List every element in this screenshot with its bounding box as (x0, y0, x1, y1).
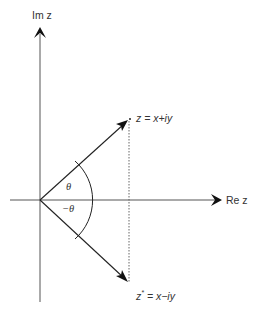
vector-z (40, 120, 128, 200)
argand-diagram: Im z Re z z = x+iy z* = x−iy θ −θ (0, 0, 257, 313)
angle-neg-theta-label: −θ (62, 203, 74, 214)
real-axis (10, 194, 222, 206)
point-z-dot (129, 118, 131, 120)
imaginary-axis-label: Im z (32, 9, 52, 21)
vector-zconj (40, 200, 128, 282)
real-axis-label: Re z (226, 194, 248, 206)
angle-theta-label: θ (66, 181, 71, 192)
point-zconj-label: z* = x−iy (135, 289, 176, 302)
imaginary-axis (34, 27, 46, 302)
point-z-label: z = x+iy (135, 112, 173, 124)
